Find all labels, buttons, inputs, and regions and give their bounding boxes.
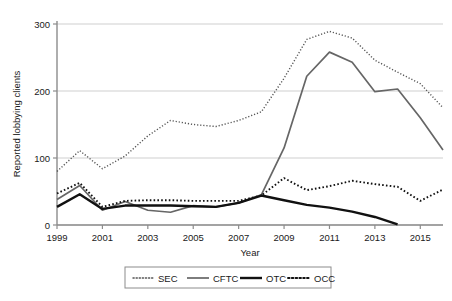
series-line-occ xyxy=(57,178,443,207)
y-tick-label-300: 300 xyxy=(34,19,50,30)
y-tick-label-100: 100 xyxy=(34,153,50,164)
y-axis-title: Reported lobbying clients xyxy=(11,70,22,177)
y-tick-label-0: 0 xyxy=(45,220,50,231)
x-tick-label-2015: 2015 xyxy=(410,232,431,243)
x-tick-label-2005: 2005 xyxy=(183,232,204,243)
series-line-cftc xyxy=(57,52,443,212)
legend-label-cftc: CFTC xyxy=(213,273,238,284)
legend-label-occ: OCC xyxy=(314,273,335,284)
legend-label-otc: OTC xyxy=(266,273,286,284)
x-tick-label-2009: 2009 xyxy=(273,232,294,243)
y-tick-label-200: 200 xyxy=(34,86,50,97)
line-chart: 0100200300199920012003200520072009201120… xyxy=(0,0,452,301)
x-tick-label-1999: 1999 xyxy=(46,232,67,243)
x-tick-label-2001: 2001 xyxy=(92,232,113,243)
chart-figure: 0100200300199920012003200520072009201120… xyxy=(0,0,452,301)
x-axis-title: Year xyxy=(240,247,259,258)
x-tick-label-2003: 2003 xyxy=(137,232,158,243)
legend-label-sec: SEC xyxy=(158,273,178,284)
x-tick-label-2013: 2013 xyxy=(364,232,385,243)
series-line-otc xyxy=(57,194,398,224)
x-tick-label-2007: 2007 xyxy=(228,232,249,243)
series-line-sec xyxy=(57,31,443,171)
x-tick-label-2011: 2011 xyxy=(319,232,339,243)
